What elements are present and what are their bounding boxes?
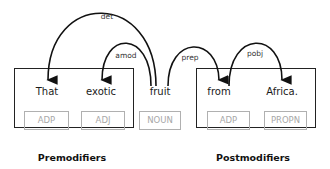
token-that: That — [36, 86, 59, 97]
token-fruit: fruit — [150, 86, 171, 97]
pos-tag-from: ADP — [207, 111, 250, 130]
premodifiers-label: Premodifiers — [38, 152, 106, 163]
arc-label-prep: prep — [181, 53, 198, 62]
pos-tag-africa: PROPN — [264, 111, 307, 130]
postmodifiers-label: Postmodifiers — [216, 152, 290, 163]
pos-tag-that: ADP — [24, 111, 69, 130]
dependency-arcs — [0, 0, 330, 169]
token-from: from — [207, 86, 230, 97]
pos-tag-exotic: ADJ — [81, 111, 125, 130]
arc-amod — [102, 43, 151, 86]
token-exotic: exotic — [86, 86, 116, 97]
arc-label-pobj: pobj — [247, 49, 263, 58]
token-africa: Africa. — [266, 86, 298, 97]
arc-label-amod: amod — [115, 51, 136, 60]
arc-label-det: det — [101, 12, 113, 21]
pos-tag-fruit: NOUN — [139, 111, 181, 130]
